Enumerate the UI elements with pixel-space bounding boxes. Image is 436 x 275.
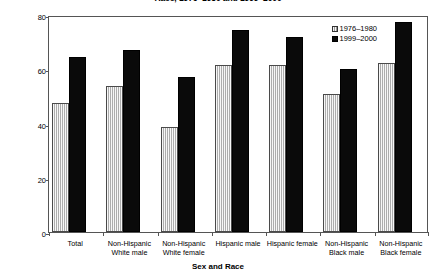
bar-group: [49, 17, 103, 232]
bar-new: [395, 22, 412, 232]
legend-swatch-icon: [332, 26, 338, 32]
bar-old: [215, 65, 232, 232]
bar-new: [340, 69, 357, 232]
bar-new: [178, 77, 195, 232]
bar-old: [161, 127, 178, 232]
chart-title: Race, 1976–1980 and 1999–2000: [0, 0, 436, 3]
bar-new: [123, 50, 140, 232]
bar-new: [286, 37, 303, 232]
legend-label: 1999–2000: [340, 34, 378, 44]
legend-item: 1999–2000: [332, 34, 377, 44]
y-tick-label: 80: [2, 14, 46, 22]
bar-new: [232, 30, 249, 232]
bar-chart: Race, 1976–1980 and 1999–2000 Percent 02…: [0, 0, 436, 275]
bar-group: [375, 17, 429, 232]
bar-old: [378, 63, 395, 232]
bar-old: [106, 86, 123, 232]
legend: 1976–19801999–2000: [332, 24, 377, 44]
y-tick-label: 20: [2, 176, 46, 184]
x-tick-mark: [49, 232, 50, 236]
y-tick-label: 0: [2, 231, 46, 239]
x-tick-mark: [103, 232, 104, 236]
legend-item: 1976–1980: [332, 24, 377, 34]
x-tick-label: Non-Hispanic Black female: [366, 239, 436, 257]
plot-area: Percent 020406080: [48, 16, 428, 233]
bar-group: [266, 17, 320, 232]
bars-layer: [49, 17, 427, 232]
x-tick-mark: [428, 232, 429, 236]
x-tick-mark: [375, 232, 376, 236]
x-tick-mark: [212, 232, 213, 236]
legend-label: 1976–1980: [340, 24, 378, 34]
bar-group: [158, 17, 212, 232]
bar-old: [269, 65, 286, 232]
x-tick-mark: [266, 232, 267, 236]
bar-old: [52, 103, 69, 232]
y-tick-label: 40: [2, 122, 46, 130]
x-axis-title: Sex and Race: [0, 262, 436, 271]
bar-old: [323, 94, 340, 232]
bar-group: [212, 17, 266, 232]
bar-new: [69, 57, 86, 232]
x-tick-mark: [320, 232, 321, 236]
y-tick-label: 60: [2, 68, 46, 76]
bar-group: [103, 17, 157, 232]
legend-swatch-icon: [332, 36, 338, 42]
x-tick-mark: [158, 232, 159, 236]
bar-group: [320, 17, 374, 232]
